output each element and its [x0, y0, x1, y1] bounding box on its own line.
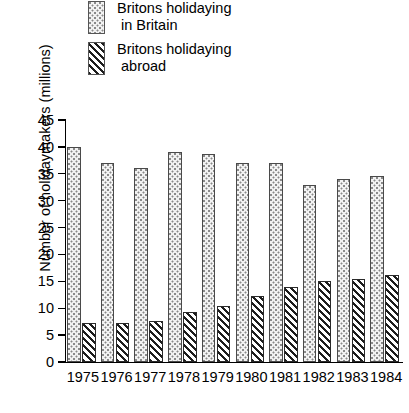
bar-in-britain-1981	[269, 163, 283, 362]
bar-abroad-1977	[149, 321, 163, 362]
y-tick-label-20: 20	[20, 247, 54, 262]
y-tick-0	[58, 361, 66, 362]
bar-in-britain-1983	[337, 179, 351, 362]
bar-abroad-1979	[217, 306, 231, 362]
bar-in-britain-1982	[303, 185, 317, 362]
legend-label-in-britain-line2: in Britain	[117, 17, 177, 33]
y-tick-label-5: 5	[20, 328, 54, 343]
bar-abroad-1982	[318, 281, 332, 362]
y-tick-label-0: 0	[20, 355, 54, 370]
x-axis-line	[65, 362, 403, 363]
bar-in-britain-1976	[101, 163, 115, 362]
bar-chart: Britons holidaying in Britain Britons ho…	[0, 0, 409, 413]
y-tick-label-40: 40	[20, 140, 54, 155]
legend-label-in-britain: Britons holidaying in Britain	[117, 0, 231, 34]
y-tick-25	[58, 227, 66, 228]
bar-in-britain-1980	[236, 163, 250, 362]
y-tick-label-45: 45	[20, 113, 54, 128]
bar-in-britain-1979	[202, 154, 216, 362]
bar-in-britain-1984	[370, 176, 384, 362]
chart-legend: Britons holidaying in Britain Britons ho…	[88, 0, 231, 82]
bar-abroad-1984	[385, 275, 399, 362]
bar-abroad-1975	[82, 323, 96, 362]
bar-abroad-1980	[251, 296, 265, 362]
legend-label-in-britain-line1: Britons holidaying	[117, 0, 231, 16]
y-tick-label-35: 35	[20, 167, 54, 182]
y-tick-30	[58, 200, 66, 201]
bar-abroad-1976	[116, 323, 130, 362]
bar-abroad-1983	[352, 279, 366, 362]
bar-in-britain-1977	[134, 168, 148, 362]
bar-abroad-1978	[183, 312, 197, 362]
legend-swatch-dotted-icon	[88, 1, 105, 34]
y-tick-20	[58, 254, 66, 255]
legend-swatch-hatched-icon	[88, 42, 105, 75]
bar-abroad-1981	[284, 287, 298, 362]
y-tick-10	[58, 308, 66, 309]
y-tick-label-30: 30	[20, 194, 54, 209]
y-tick-5	[58, 334, 66, 335]
y-tick-45	[58, 119, 66, 120]
x-tick-label-1984: 1984	[366, 369, 406, 385]
legend-label-abroad-line2: abroad	[117, 58, 166, 74]
legend-item-in-britain: Britons holidaying in Britain	[88, 0, 231, 34]
y-tick-15	[58, 281, 66, 282]
bar-in-britain-1975	[67, 147, 81, 362]
y-tick-40	[58, 146, 66, 147]
legend-label-abroad-line1: Britons holidaying	[117, 41, 231, 57]
y-tick-label-25: 25	[20, 221, 54, 236]
y-tick-label-15: 15	[20, 274, 54, 289]
legend-label-abroad: Britons holidaying abroad	[117, 41, 231, 75]
y-tick-label-10: 10	[20, 301, 54, 316]
legend-item-abroad: Britons holidaying abroad	[88, 41, 231, 75]
y-tick-35	[58, 173, 66, 174]
bar-in-britain-1978	[168, 152, 182, 362]
